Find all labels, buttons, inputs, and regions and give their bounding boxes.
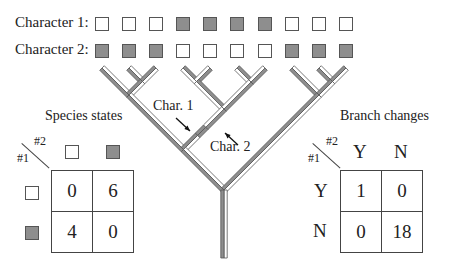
species-col-header-grey [106,145,120,159]
species-row-header-grey [25,226,39,240]
species-states-title: Species states [45,108,122,124]
cell: 0 [93,212,134,253]
cell: 1 [341,171,382,212]
branch-row-header-y: Y [314,180,328,202]
cell: 6 [93,171,134,212]
cell: 0 [382,171,423,212]
branch-col-header-n: N [394,141,408,163]
species-states-table: 06 40 [51,170,134,253]
cell: 0 [341,212,382,253]
branch-row-header-n: N [313,220,327,242]
branch-axis-row: #1 [308,151,320,166]
branch-axis-col: #2 [326,134,338,149]
species-col-header-white [65,145,79,159]
species-axis-row: #1 [17,151,29,166]
species-row-header-white [25,186,39,200]
species-axis-col: #2 [34,134,46,149]
char2-annotation: Char. 2 [210,139,250,155]
branch-changes-title: Branch changes [340,108,429,124]
branch-col-header-y: Y [353,141,367,163]
cell: 0 [52,171,93,212]
cell: 4 [52,212,93,253]
branch-changes-table: 10 018 [340,170,423,253]
cell: 18 [382,212,423,253]
char1-annotation: Char. 1 [153,98,193,114]
